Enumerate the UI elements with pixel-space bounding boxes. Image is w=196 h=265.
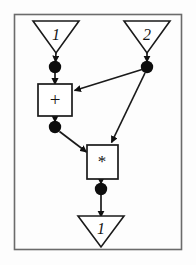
multiply-operator-label: * (98, 152, 107, 171)
token-input1[interactable] (49, 61, 61, 73)
input-port-1-label: 1 (52, 26, 60, 43)
diagram-canvas: 1 2 + * 1 (0, 0, 196, 265)
diagram-frame (15, 15, 182, 250)
output-port-1-label: 1 (97, 220, 105, 237)
token-add-output[interactable] (49, 121, 61, 133)
token-multiply-output[interactable] (95, 183, 107, 195)
dataflow-graph: 1 2 + * 1 (0, 0, 196, 265)
token-input2[interactable] (141, 61, 153, 73)
input-port-2-label: 2 (143, 26, 151, 43)
add-operator-label: + (50, 89, 61, 110)
operator-add[interactable]: + (38, 84, 72, 116)
operator-multiply[interactable]: * (87, 145, 118, 179)
